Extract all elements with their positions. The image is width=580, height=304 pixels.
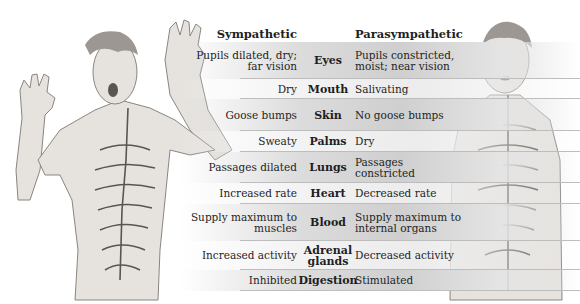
parasympathetic-effect: Decreased activity bbox=[355, 241, 465, 270]
sympathetic-effect: Dry bbox=[180, 79, 297, 99]
organ-label: Palms bbox=[300, 131, 356, 152]
parasympathetic-effect: Stimulated bbox=[355, 270, 465, 291]
sympathetic-effect: Passages dilated bbox=[180, 152, 297, 183]
sympathetic-effect: Inhibited bbox=[180, 270, 297, 291]
table-row: Increased rateHeartDecreased rate bbox=[180, 183, 580, 204]
parasympathetic-effect: No goose bumps bbox=[355, 99, 465, 131]
table-row: Passages dilatedLungsPassages constricte… bbox=[180, 152, 580, 183]
table-row: Supply maximum to musclesBloodSupply max… bbox=[180, 204, 580, 241]
organ-label: Heart bbox=[300, 183, 356, 204]
table-row: Goose bumpsSkinNo goose bumps bbox=[180, 99, 580, 131]
parasympathetic-effect: Decreased rate bbox=[355, 183, 465, 204]
table-row: InhibitedDigestionStimulated bbox=[180, 270, 580, 291]
sympathetic-effect: Increased activity bbox=[180, 241, 297, 270]
organ-label: Adrenal glands bbox=[300, 241, 356, 270]
sympathetic-effect: Increased rate bbox=[180, 183, 297, 204]
parasympathetic-effect: Dry bbox=[355, 131, 465, 152]
organ-label: Eyes bbox=[300, 42, 356, 79]
nervous-system-comparison-table: Sympathetic Parasympathetic Pupils dilat… bbox=[180, 20, 580, 294]
parasympathetic-effect: Salivating bbox=[355, 79, 465, 99]
parasympathetic-header: Parasympathetic bbox=[355, 27, 463, 41]
parasympathetic-effect: Pupils constricted, moist; near vision bbox=[355, 42, 465, 79]
organ-label: Mouth bbox=[300, 79, 356, 99]
sympathetic-effect: Goose bumps bbox=[180, 99, 297, 131]
sympathetic-header: Sympathetic bbox=[217, 27, 297, 41]
parasympathetic-effect: Passages constricted bbox=[355, 152, 465, 183]
sympathetic-effect: Supply maximum to muscles bbox=[180, 204, 297, 241]
organ-label: Lungs bbox=[300, 152, 356, 183]
table-row: SweatyPalmsDry bbox=[180, 131, 580, 152]
sympathetic-effect: Pupils dilated, dry; far vision bbox=[180, 42, 297, 79]
sympathetic-effect: Sweaty bbox=[180, 131, 297, 152]
organ-label: Skin bbox=[300, 99, 356, 131]
table-row: DryMouthSalivating bbox=[180, 79, 580, 99]
organ-label: Blood bbox=[300, 204, 356, 241]
table-row: Increased activityAdrenal glandsDecrease… bbox=[180, 241, 580, 270]
organ-label: Digestion bbox=[300, 270, 356, 291]
table-row: Pupils dilated, dry; far visionEyesPupil… bbox=[180, 42, 580, 79]
row-divider bbox=[240, 290, 580, 291]
parasympathetic-effect: Supply maximum to internal organs bbox=[355, 204, 465, 241]
